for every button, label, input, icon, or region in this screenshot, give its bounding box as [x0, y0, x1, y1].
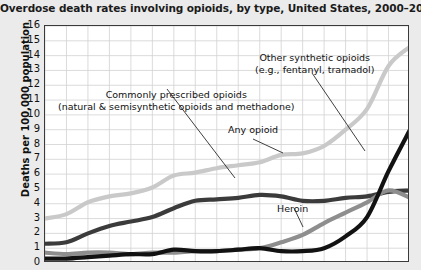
- y-tick-7: 7: [18, 153, 40, 163]
- annotation-prescribed-line2: (natural & semisynthetic opioids and met…: [58, 101, 295, 113]
- annotation-commonly-prescribed-opioids: Commonly prescribed opioids (natural & s…: [58, 89, 295, 112]
- annotation-prescribed-line1: Commonly prescribed opioids: [58, 89, 295, 101]
- annotation-other-synthetic-opioids: Other synthetic opioids (e.g., fentanyl,…: [255, 52, 374, 75]
- y-tick-13: 13: [18, 64, 40, 74]
- annotation-heroin-line1: Heroin: [277, 203, 308, 215]
- y-tick-12: 12: [18, 79, 40, 89]
- y-tick-14: 14: [18, 50, 40, 60]
- y-tick-15: 15: [18, 35, 40, 45]
- y-tick-1: 1: [18, 242, 40, 252]
- y-axis-tick-labels: 161514131211109876543210: [16, 0, 40, 270]
- series-line-3: [45, 130, 409, 259]
- annotation-any-opioid: Any opioid: [228, 124, 278, 136]
- series-lines: [45, 47, 409, 259]
- annotation-any-opioid-line1: Any opioid: [228, 124, 278, 136]
- leader-line-synthetic: [312, 73, 365, 151]
- opioid-overdose-chart: Overdose death rates involving opioids, …: [0, 0, 421, 270]
- annotation-synthetic-line2: (e.g., fentanyl, tramadol): [255, 64, 374, 76]
- chart-title: Overdose death rates involving opioids, …: [0, 2, 421, 14]
- y-tick-9: 9: [18, 124, 40, 134]
- y-tick-3: 3: [18, 213, 40, 223]
- y-tick-11: 11: [18, 94, 40, 104]
- y-tick-6: 6: [18, 168, 40, 178]
- leader-line-any-opioid: [253, 139, 283, 153]
- y-tick-0: 0: [18, 257, 40, 267]
- y-tick-16: 16: [18, 20, 40, 30]
- y-tick-5: 5: [18, 183, 40, 193]
- y-tick-10: 10: [18, 109, 40, 119]
- y-tick-8: 8: [18, 139, 40, 149]
- y-tick-4: 4: [18, 198, 40, 208]
- annotation-synthetic-line1: Other synthetic opioids: [255, 52, 374, 64]
- annotation-heroin: Heroin: [277, 203, 308, 215]
- y-tick-2: 2: [18, 227, 40, 237]
